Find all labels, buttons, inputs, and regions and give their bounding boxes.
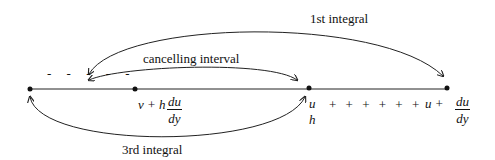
point2-fraction: du dy <box>167 95 182 125</box>
point-3 <box>307 86 312 91</box>
cancelling-interval-label: cancelling interval <box>143 52 239 65</box>
point4-fraction: du dy <box>455 95 470 125</box>
point4-fraction-denominator: dy <box>455 110 470 125</box>
plus-series: + + + + + + <box>329 97 419 113</box>
left-dashes: - - - - - <box>47 66 136 82</box>
point2-expression: v + h <box>138 98 166 111</box>
third-integral-label: 3rd integral <box>122 143 182 156</box>
point2-fraction-numerator: du <box>167 95 182 110</box>
first-integral-label: 1st integral <box>310 12 368 25</box>
point-1 <box>28 87 33 92</box>
point4-expression: u + <box>425 97 444 110</box>
point-4 <box>445 86 450 91</box>
point-2 <box>133 87 138 92</box>
point2-fraction-denominator: dy <box>167 110 182 125</box>
point3-bottom-label: h <box>309 113 316 126</box>
point3-top-label: u <box>309 97 316 110</box>
point4-fraction-numerator: du <box>455 95 470 110</box>
